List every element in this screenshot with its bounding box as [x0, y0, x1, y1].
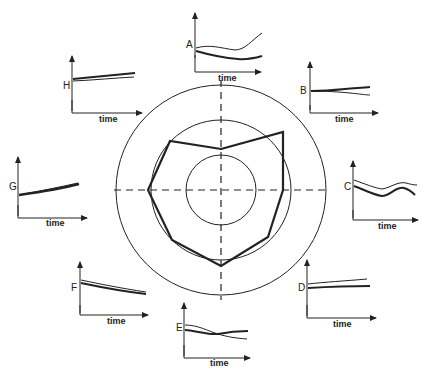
- plot-h-xlabel: time: [99, 115, 118, 124]
- plot-a-xlabel: time: [218, 74, 237, 83]
- plot-a: [195, 13, 262, 72]
- plot-e: [184, 303, 250, 358]
- plot-b-xlabel: time: [335, 115, 354, 124]
- plot-f: [80, 262, 148, 315]
- plot-g: [18, 157, 87, 218]
- plot-h: [72, 56, 142, 113]
- plot-d: [307, 260, 376, 318]
- diagram-canvas: [0, 0, 432, 377]
- plot-f-label: F: [71, 283, 77, 293]
- plot-c-xlabel: time: [378, 222, 397, 231]
- plot-d-label: D: [298, 283, 305, 293]
- plot-h-label: H: [63, 81, 70, 91]
- radar-chart: [114, 80, 330, 300]
- plot-c: [353, 161, 418, 220]
- plot-g-label: G: [9, 182, 17, 192]
- plot-e-xlabel: time: [210, 359, 229, 368]
- plot-g-xlabel: time: [46, 219, 65, 228]
- plot-f-xlabel: time: [107, 317, 126, 326]
- plot-a-label: A: [186, 40, 193, 50]
- plot-c-label: C: [344, 182, 351, 192]
- plot-b-label: B: [300, 86, 307, 96]
- plot-b: [310, 62, 378, 113]
- plot-d-xlabel: time: [333, 320, 352, 329]
- plot-e-label: E: [176, 323, 183, 333]
